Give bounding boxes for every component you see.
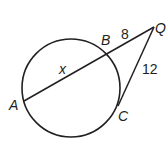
secant-line-aq [24, 27, 154, 101]
segment-label-bq: 8 [121, 26, 129, 42]
circle [22, 39, 120, 137]
point-label-b: B [101, 32, 110, 48]
geometry-diagram: A B C Q x 8 12 [0, 0, 168, 145]
point-label-a: A [8, 97, 18, 113]
point-label-q: Q [155, 20, 166, 36]
segment-label-cq: 12 [142, 61, 158, 77]
segment-label-x: x [58, 61, 67, 77]
point-label-c: C [118, 108, 129, 124]
